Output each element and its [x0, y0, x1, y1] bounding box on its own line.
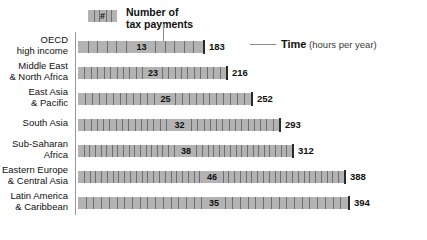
payment-tick [175, 67, 176, 79]
payment-tick [302, 197, 303, 209]
payment-tick [155, 41, 156, 53]
bar-end-cap [292, 144, 294, 158]
payment-tick [309, 171, 310, 183]
payment-tick [86, 197, 87, 209]
payment-tick [325, 197, 326, 209]
payment-tick [241, 119, 242, 131]
payment-tick [147, 93, 148, 105]
payment-tick [182, 93, 183, 105]
payment-tick [165, 171, 166, 183]
row-category-label: Sub-SaharanAfrica [0, 139, 68, 160]
payment-tick [266, 119, 267, 131]
payment-tick [229, 119, 230, 131]
payment-tick [298, 171, 299, 183]
payment-tick [95, 145, 96, 157]
payment-tick [333, 197, 334, 209]
payment-tick [112, 145, 113, 157]
chart-row: South Asia32293 [0, 112, 427, 138]
payment-tick [101, 145, 102, 157]
payment-tick [196, 145, 197, 157]
payments-count-label: 23 [144, 67, 162, 79]
payment-tick [116, 119, 117, 131]
payment-tick [271, 197, 272, 209]
payment-tick [154, 93, 155, 105]
payment-tick [159, 171, 160, 183]
payment-tick [213, 145, 214, 157]
payment-tick [182, 171, 183, 183]
payment-tick [126, 41, 127, 53]
payment-tick [286, 145, 287, 157]
payment-tick [129, 145, 130, 157]
payment-tick [147, 197, 148, 209]
payment-tick [264, 145, 265, 157]
payment-tick [118, 171, 119, 183]
payment-tick [147, 171, 148, 183]
payment-tick [317, 197, 318, 209]
payment-tick [171, 197, 172, 209]
payment-tick [248, 119, 249, 131]
payment-tick [84, 67, 85, 79]
row-category-line2: & Pacific [0, 98, 68, 109]
payment-tick [196, 93, 197, 105]
payment-tick [107, 41, 108, 53]
payment-tick [163, 197, 164, 209]
payment-tick [338, 171, 339, 183]
payment-tick [275, 171, 276, 183]
payment-tick [126, 93, 127, 105]
payment-tick [207, 67, 208, 79]
payment-tick [204, 119, 205, 131]
bar-end-cap [344, 170, 346, 184]
payment-tick [101, 171, 102, 183]
payment-tick [208, 145, 209, 157]
payment-tick [136, 171, 137, 183]
payment-tick [117, 145, 118, 157]
payment-tick [122, 119, 123, 131]
payment-tick [210, 119, 211, 131]
payment-tick [171, 171, 172, 183]
payment-tick [199, 171, 200, 183]
payment-tick [216, 93, 217, 105]
payment-tick [209, 93, 210, 105]
payment-tick [189, 93, 190, 105]
bar-end-cap [348, 196, 350, 210]
payment-tick [279, 197, 280, 209]
payment-tick [134, 145, 135, 157]
payment-tick [140, 197, 141, 209]
payment-tick [294, 197, 295, 209]
row-category-line2: & Central Asia [0, 176, 68, 187]
payment-tick [92, 93, 93, 105]
payment-tick [153, 119, 154, 131]
payment-tick [186, 197, 187, 209]
payment-tick [147, 119, 148, 131]
payment-tick [234, 171, 235, 183]
payment-tick [123, 145, 124, 157]
row-category-line1: Middle East [0, 61, 68, 72]
time-value-label: 293 [285, 119, 301, 131]
bar-end-cap [279, 118, 281, 132]
payment-tick [254, 119, 255, 131]
payment-tick [85, 93, 86, 105]
payment-tick [153, 171, 154, 183]
payment-tick [168, 67, 169, 79]
row-category-line1: Eastern Europe [0, 165, 68, 176]
payment-tick [174, 145, 175, 157]
time-callout-strong: Time [281, 38, 306, 50]
payment-tick [240, 171, 241, 183]
payment-tick [88, 41, 89, 53]
payment-tick [321, 171, 322, 183]
payment-tick [99, 93, 100, 105]
payment-tick [155, 197, 156, 209]
payment-tick [304, 171, 305, 183]
payment-tick [273, 119, 274, 131]
payment-tick [140, 145, 141, 157]
payment-tick [203, 93, 204, 105]
payment-tick [90, 171, 91, 183]
payment-tick [332, 171, 333, 183]
bar-end-cap [251, 92, 253, 106]
payment-tick [91, 119, 92, 131]
row-category-line2: Africa [0, 150, 68, 161]
payment-tick [251, 171, 252, 183]
time-value-label: 252 [257, 93, 273, 105]
payment-tick [235, 119, 236, 131]
payment-tick [124, 171, 125, 183]
